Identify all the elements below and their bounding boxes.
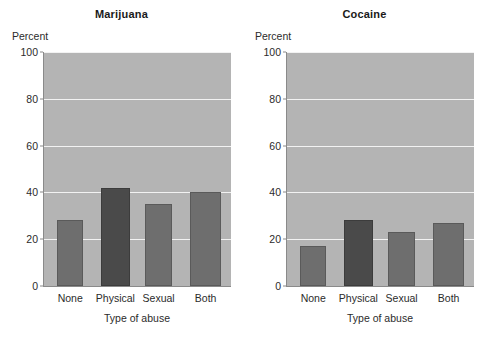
panel-title-marijuana: Marijuana xyxy=(0,8,243,20)
panel-cocaine: Cocaine Percent 020406080100 NonePhysica… xyxy=(243,0,486,339)
bar-sexual xyxy=(145,204,172,286)
y-tick-label: 0 xyxy=(275,280,281,292)
plot-area-marijuana: 020406080100 xyxy=(43,52,231,286)
y-tick-label: 80 xyxy=(26,93,38,105)
x-tick-label: None xyxy=(301,292,326,304)
x-tick-label: Sexual xyxy=(386,292,418,304)
y-axis-label-cocaine: Percent xyxy=(255,30,291,42)
x-tick-label: Both xyxy=(438,292,460,304)
x-tick-label: None xyxy=(58,292,83,304)
y-axis-label-marijuana: Percent xyxy=(12,30,48,42)
bar-sexual xyxy=(388,232,415,286)
bar-series-cocaine xyxy=(286,52,474,286)
y-tick-label: 60 xyxy=(269,140,281,152)
y-tick-label: 40 xyxy=(26,186,38,198)
bar-series-marijuana xyxy=(43,52,231,286)
y-tick-label: 60 xyxy=(26,140,38,152)
y-tick-label: 40 xyxy=(269,186,281,198)
two-panel-bar-chart-figure: Marijuana Percent 020406080100 NonePhysi… xyxy=(0,0,487,339)
x-axis-label-marijuana: Type of abuse xyxy=(43,312,231,324)
bar-both xyxy=(190,192,221,286)
x-axis-line-marijuana xyxy=(43,286,231,287)
y-tick-label: 100 xyxy=(20,46,38,58)
y-tick-label: 100 xyxy=(263,46,281,58)
y-tick-label: 20 xyxy=(269,233,281,245)
panel-title-cocaine: Cocaine xyxy=(243,8,486,20)
y-axis-line-marijuana xyxy=(43,52,44,286)
x-tick-label: Both xyxy=(195,292,217,304)
x-tick-label: Sexual xyxy=(143,292,175,304)
panel-marijuana: Marijuana Percent 020406080100 NonePhysi… xyxy=(0,0,243,339)
x-axis-line-cocaine xyxy=(286,286,474,287)
y-tick-label: 0 xyxy=(32,280,38,292)
x-axis-label-cocaine: Type of abuse xyxy=(286,312,474,324)
bar-both xyxy=(433,223,464,286)
y-tick-label: 80 xyxy=(269,93,281,105)
y-axis-line-cocaine xyxy=(286,52,287,286)
bar-physical xyxy=(344,220,373,286)
y-tick-label: 20 xyxy=(26,233,38,245)
bar-none xyxy=(57,220,83,286)
x-tick-label: Physical xyxy=(339,292,378,304)
x-tick-label: Physical xyxy=(96,292,135,304)
bar-physical xyxy=(101,188,130,286)
plot-area-cocaine: 020406080100 xyxy=(286,52,474,286)
bar-none xyxy=(300,246,326,286)
